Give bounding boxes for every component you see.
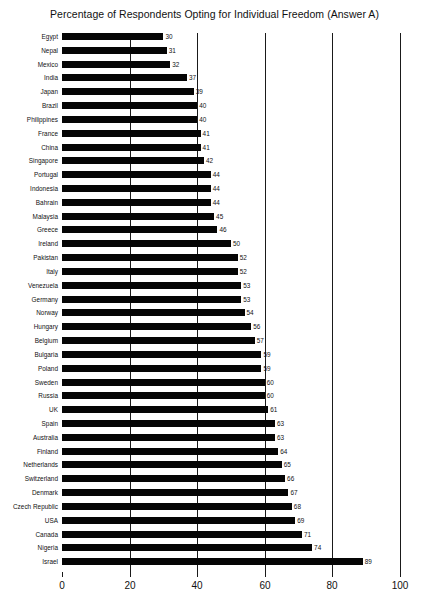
x-tick-label-60: 60 (245, 580, 285, 591)
bar (62, 420, 275, 427)
bar-row: France41 (0, 130, 429, 137)
bar (62, 351, 261, 358)
category-label: Greece (0, 226, 58, 233)
bar-value-label: 44 (213, 199, 220, 206)
bar-row: Malaysia45 (0, 213, 429, 220)
bar (62, 61, 170, 68)
bar-row: Venezuela53 (0, 282, 429, 289)
bar (62, 434, 275, 441)
bar-value-label: 40 (199, 102, 206, 109)
category-label: Portugal (0, 171, 58, 178)
category-label: Ireland (0, 240, 58, 247)
bar-row: Greece46 (0, 226, 429, 233)
bar (62, 517, 295, 524)
bar-row: Nepal31 (0, 47, 429, 54)
bar-value-label: 31 (169, 47, 176, 54)
bar-value-label: 37 (189, 74, 196, 81)
bar-value-label: 63 (277, 434, 284, 441)
bar (62, 296, 241, 303)
bar-value-label: 68 (294, 503, 301, 510)
bar-value-label: 74 (314, 544, 321, 551)
bar-row: Bahrain44 (0, 199, 429, 206)
bar (62, 379, 265, 386)
bar-value-label: 59 (263, 365, 270, 372)
bar-value-label: 65 (284, 461, 291, 468)
bar-row: Czech Republic68 (0, 503, 429, 510)
bar (62, 226, 217, 233)
bar-row: Singapore42 (0, 157, 429, 164)
category-label: UK (0, 406, 58, 413)
bar-row: Portugal44 (0, 171, 429, 178)
category-label: Singapore (0, 157, 58, 164)
bar-row: USA69 (0, 517, 429, 524)
category-label: China (0, 144, 58, 151)
x-tick-mark-100 (400, 572, 401, 577)
bar-value-label: 41 (203, 144, 210, 151)
category-label: India (0, 74, 58, 81)
category-label: Brazil (0, 102, 58, 109)
bar-row: Switzerland66 (0, 475, 429, 482)
bar (62, 144, 201, 151)
bar-value-label: 56 (253, 323, 260, 330)
category-label: Bulgaria (0, 351, 58, 358)
bar (62, 406, 268, 413)
bar-row: Italy52 (0, 268, 429, 275)
bar-value-label: 44 (213, 185, 220, 192)
category-label: Belgium (0, 337, 58, 344)
bar-value-label: 71 (304, 531, 311, 538)
bar (62, 282, 241, 289)
category-label: Czech Republic (0, 503, 58, 510)
bar (62, 130, 201, 137)
x-tick-label-40: 40 (177, 580, 217, 591)
bar-row: India37 (0, 74, 429, 81)
bar (62, 531, 302, 538)
x-tick-mark-80 (332, 572, 333, 577)
bar-value-label: 67 (290, 489, 297, 496)
bar (62, 268, 238, 275)
bar-value-label: 45 (216, 213, 223, 220)
category-label: Denmark (0, 489, 58, 496)
bar-value-label: 57 (257, 337, 264, 344)
chart-title: Percentage of Respondents Opting for Ind… (0, 8, 429, 20)
category-label: Philippines (0, 116, 58, 123)
bar (62, 448, 278, 455)
bar-row: Poland59 (0, 365, 429, 372)
x-tick-label-80: 80 (312, 580, 352, 591)
category-label: Bahrain (0, 199, 58, 206)
bar-value-label: 46 (219, 226, 226, 233)
bar (62, 365, 261, 372)
category-label: Pakistan (0, 254, 58, 261)
x-tick-label-100: 100 (380, 580, 420, 591)
bar-value-label: 69 (297, 517, 304, 524)
bar-row: Netherlands65 (0, 461, 429, 468)
bar (62, 461, 282, 468)
bar-value-label: 52 (240, 254, 247, 261)
category-label: Russia (0, 392, 58, 399)
bar (62, 240, 231, 247)
bar-value-label: 30 (165, 33, 172, 40)
category-label: Netherlands (0, 461, 58, 468)
bar (62, 392, 265, 399)
bar-value-label: 42 (206, 157, 213, 164)
bar-row: China41 (0, 144, 429, 151)
bar-row: Spain63 (0, 420, 429, 427)
bar (62, 185, 211, 192)
bar-value-label: 52 (240, 268, 247, 275)
bar-value-label: 89 (365, 558, 372, 565)
bar-row: Ireland50 (0, 240, 429, 247)
bar-value-label: 32 (172, 61, 179, 68)
bar (62, 254, 238, 261)
bar-row: Brazil40 (0, 102, 429, 109)
bar-value-label: 60 (267, 379, 274, 386)
bar-value-label: 40 (199, 116, 206, 123)
bar (62, 171, 211, 178)
category-label: Finland (0, 448, 58, 455)
bar-row: Canada71 (0, 531, 429, 538)
x-tick-label-20: 20 (110, 580, 150, 591)
bar-value-label: 44 (213, 171, 220, 178)
bar-row: Nigeria74 (0, 544, 429, 551)
bar (62, 489, 288, 496)
x-tick-mark-20 (130, 572, 131, 577)
category-label: USA (0, 517, 58, 524)
category-label: Malaysia (0, 213, 58, 220)
